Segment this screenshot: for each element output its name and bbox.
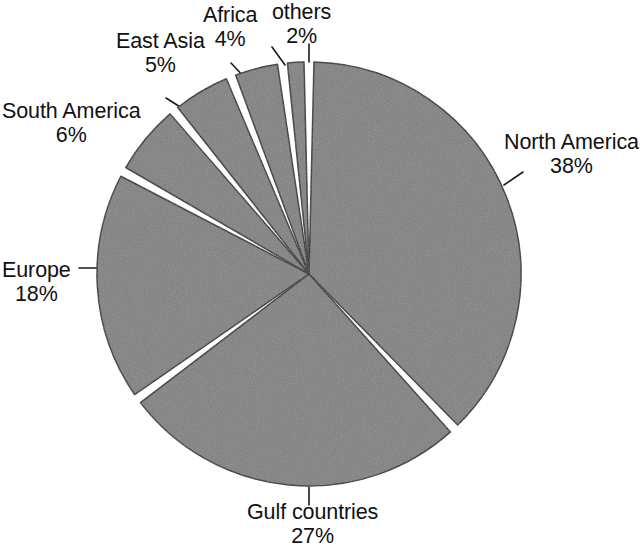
pie-chart-canvas [0,0,642,552]
slice-label-east-asia-percent: 5% [116,53,205,77]
slice-label-gulf-countries-name: Gulf countries [247,500,378,524]
slice-label-others: others 2% [272,0,331,48]
slice-label-east-asia-name: East Asia [116,29,205,53]
slice-label-others-name: others [272,0,331,24]
slice-label-africa-name: Africa [203,3,257,27]
slice-label-europe-percent: 18% [2,282,71,306]
slice-label-north-america-percent: 38% [504,154,639,178]
slice-label-gulf-countries-percent: 27% [247,524,378,548]
slice-label-others-percent: 2% [272,24,331,48]
slice-label-south-america-name: South America [2,99,141,123]
slice-label-gulf-countries: Gulf countries 27% [247,500,378,548]
slice-label-south-america-percent: 6% [2,123,141,147]
slice-label-east-asia: East Asia 5% [116,29,205,77]
pie-chart: North America 38% Gulf countries 27% Eur… [0,0,642,552]
slice-label-south-america: South America 6% [2,99,141,147]
slice-label-europe-name: Europe [2,258,71,282]
slice-label-north-america: North America 38% [504,130,639,178]
slice-label-north-america-name: North America [504,130,639,154]
slice-label-africa: Africa 4% [203,3,257,51]
slice-label-africa-percent: 4% [203,27,257,51]
slice-label-europe: Europe 18% [2,258,71,306]
